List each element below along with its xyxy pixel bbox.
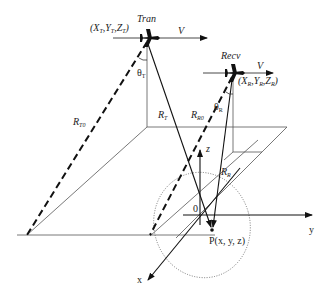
bistatic-sar-diagram: Tran (XT,YT,ZT) V Recv V (XR,YR,ZR) θT θ… — [0, 0, 325, 292]
inner-plane-line — [150, 140, 258, 236]
theta-t-label: θT — [137, 67, 146, 79]
theta-r-label: θR — [214, 101, 223, 113]
y-axis-label: y — [309, 224, 314, 235]
rr-label: RR — [220, 166, 231, 178]
tran-label: Tran — [137, 13, 156, 24]
recv-label: Recv — [220, 50, 241, 61]
receiver-projection — [224, 75, 262, 160]
recv-coords-label: (XR,YR,ZR) — [238, 75, 279, 87]
rt-label: RT — [157, 109, 168, 121]
x-axis-label: x — [137, 274, 142, 285]
range-rt0-line — [27, 42, 147, 235]
transmitter-aircraft-icon — [140, 29, 160, 47]
target-point — [210, 228, 214, 232]
range-rt-line — [148, 44, 211, 227]
tran-coords-label: (XT,YT,ZT) — [90, 22, 130, 34]
target-label: P(x, y, z) — [209, 235, 245, 247]
x-axis — [148, 168, 240, 280]
origin-label: 0 — [193, 203, 198, 214]
theta-r-arc — [226, 92, 233, 94]
tran-velocity-label: V — [178, 25, 186, 36]
theta-t-arc — [139, 58, 147, 60]
rr0-label: RR0 — [190, 109, 204, 121]
ground-plane — [17, 127, 287, 238]
illumination-area — [142, 161, 262, 288]
rt0-label: RT0 — [72, 116, 85, 128]
recv-velocity-label: V — [257, 60, 265, 71]
range-rr0-line — [150, 77, 232, 235]
z-axis-label: z — [205, 143, 210, 154]
